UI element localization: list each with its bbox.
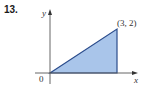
x-axis-label: x (133, 75, 138, 85)
y-axis-arrow-icon (48, 9, 52, 15)
y-axis-label: y (41, 8, 46, 18)
triangle-diagram: y x 0 (3, 2) (0, 0, 148, 85)
origin-label: 0 (39, 74, 44, 84)
vertex-label: (3, 2) (117, 18, 137, 28)
shaded-triangle-region (50, 29, 117, 73)
